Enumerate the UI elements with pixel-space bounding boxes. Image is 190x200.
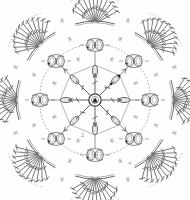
round-number-label-4: 4 (128, 160, 131, 166)
round-number-label-5: 5 (162, 30, 166, 38)
round-number-label-2: 2 (81, 132, 84, 138)
round-number-label-1: 1 (104, 84, 107, 90)
diagram-canvas: 1 2 4 5 (0, 0, 190, 200)
